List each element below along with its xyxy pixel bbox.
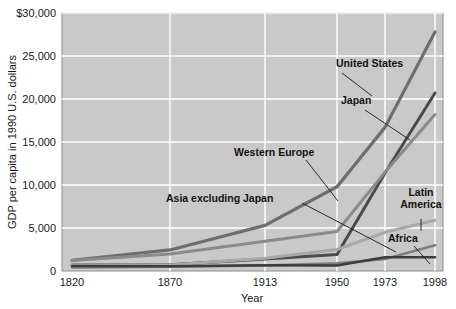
series-label-japan: Japan [341, 94, 371, 106]
x-axis-title: Year [241, 292, 264, 304]
x-tick-label: 1973 [373, 276, 397, 288]
x-tick-label: 1998 [423, 276, 447, 288]
series-label-western-europe: Western Europe [234, 146, 314, 158]
x-tick-label: 1870 [158, 276, 182, 288]
series-label-line: America [400, 198, 442, 210]
series-label-asia-excluding-japan: Asia excluding Japan [166, 192, 273, 204]
series-label-line: Western Europe [234, 146, 314, 158]
series-label-line: United States [336, 57, 403, 69]
y-tick-label: 20,000 [22, 93, 56, 105]
series-label-line: Japan [341, 94, 371, 106]
y-tick-label: 10,000 [22, 179, 56, 191]
y-tick-label: $30,000 [16, 7, 56, 19]
series-label-africa: Africa [388, 232, 418, 244]
series-label-line: Asia excluding Japan [166, 192, 273, 204]
y-tick-label: 25,000 [22, 50, 56, 62]
x-tick-label: 1820 [60, 276, 84, 288]
x-tick-label: 1950 [325, 276, 349, 288]
series-label-line: Africa [388, 232, 418, 244]
gdp-per-capita-line-chart: 05,00010,00015,00020,00025,000$30,000 18… [0, 0, 456, 309]
y-tick-label: 15,000 [22, 136, 56, 148]
series-label-line: Latin [408, 186, 433, 198]
y-tick-label: 0 [50, 265, 56, 277]
y-tick-label: 5,000 [28, 222, 56, 234]
series-label-united-states: United States [336, 57, 403, 69]
chart-figure: 05,00010,00015,00020,00025,000$30,000 18… [0, 0, 456, 309]
y-axis-title: GDP per capita in 1990 U.S. dollars [6, 54, 18, 229]
x-tick-label: 1913 [253, 276, 277, 288]
